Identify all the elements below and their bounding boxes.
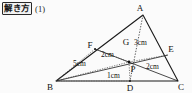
vertex-label-c: C [178, 82, 184, 92]
vertex-label-g: G [123, 37, 130, 47]
page-canvas: 解き方 (1) [0, 0, 192, 93]
vertex-label-b: B [47, 82, 53, 92]
length-label-dp: 1cm [107, 71, 120, 80]
point-f-marker [94, 48, 96, 50]
segment-pe-dotted [129, 55, 168, 62]
length-label-ec: 2cm [146, 62, 159, 71]
vertex-label-d: D [127, 83, 134, 93]
geometry-figure: A B C D E F G P 3cm 2cm 2cm 5cm 1cm [0, 0, 192, 93]
vertex-label-f: F [87, 40, 92, 50]
length-label-bp: 5cm [73, 59, 86, 68]
length-label-fg: 2cm [101, 50, 114, 59]
vertex-label-e: E [168, 44, 174, 54]
length-label-ag: 3cm [134, 38, 147, 47]
vertex-label-a: A [137, 3, 144, 13]
point-p-marker [128, 61, 131, 64]
point-d-marker [129, 80, 131, 82]
vertex-label-p: P [130, 64, 135, 74]
